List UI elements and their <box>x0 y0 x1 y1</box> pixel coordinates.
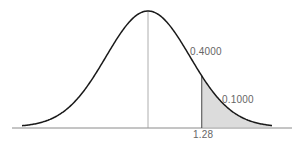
cutoff-tick-label: 1.28 <box>193 129 213 140</box>
tail-area-label: 0.1000 <box>222 94 254 105</box>
center-area-label: 0.4000 <box>190 46 222 57</box>
normal-distribution-chart: 0.4000 0.1000 1.28 <box>0 0 296 147</box>
normal-curve <box>22 11 272 126</box>
chart-plot-area <box>0 0 296 147</box>
